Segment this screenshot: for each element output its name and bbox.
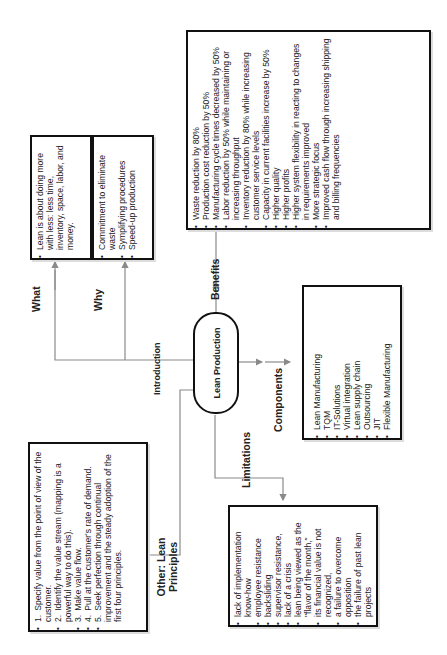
what-box: Lean is about doing more with less: less… — [30, 135, 92, 260]
label-what: What — [30, 286, 42, 312]
limitation-item: its financial value is not recognized, — [313, 511, 333, 625]
benefit-item: Improved cash flow through increasing sh… — [321, 36, 341, 228]
why-item: Symplifying procedures — [117, 141, 127, 258]
component-item: Virtual integration — [342, 291, 352, 438]
label-benefits: Benefits — [209, 259, 221, 300]
limitation-item: the failure of past lean projects — [353, 511, 373, 625]
component-item: Outsourcing — [362, 291, 372, 438]
why-item: Commitment to eliminate waste — [97, 141, 117, 258]
component-item: Lean supply chain — [352, 291, 362, 438]
principles-list: 1.Specify value from the point of view o… — [30, 444, 126, 634]
benefit-item: More strategic focus — [311, 36, 321, 228]
component-item: TQM — [322, 291, 332, 438]
benefit-item: Capacity in current facilities increase … — [261, 36, 271, 228]
label-lean-principles: Other: Lean Principles — [155, 534, 179, 600]
limitation-item: employee resistance — [253, 511, 263, 625]
principle-item: 1.Specify value from the point of view o… — [33, 448, 53, 630]
limitation-item: supervisor resistance, — [273, 511, 283, 625]
principle-item: 4.Pull at the customer's rate of demand. — [83, 448, 93, 630]
label-introduction: Introduction — [152, 343, 162, 396]
principle-item: 5.Seek perfection through continual impr… — [93, 448, 123, 630]
benefits-list: Waste reduction by 80% Production cost r… — [188, 32, 344, 232]
why-list: Commitment to eliminate waste Symplifyin… — [94, 137, 140, 262]
components-list: Lean Manufacturing TQM IT-Solutions Virt… — [304, 287, 395, 442]
label-why: Why — [92, 289, 104, 311]
center-node-lean-production: Lean Production — [193, 312, 239, 414]
benefit-item: Manufacturing cycle times decreased by 5… — [211, 36, 221, 228]
why-box: Commitment to eliminate waste Symplifyin… — [92, 135, 154, 260]
benefit-item: Production cost reduction by 50% — [201, 36, 211, 228]
benefit-item: Higher system flexibility in reacting to… — [291, 36, 311, 228]
lean-principles-box: 1.Specify value from the point of view o… — [28, 442, 148, 632]
what-list: Lean is about doing more with less: less… — [32, 137, 78, 262]
component-item: IT-Solutions — [332, 291, 342, 438]
component-item: JIT — [372, 291, 382, 438]
why-item: Speed-up production — [127, 141, 137, 258]
benefit-item: Waste reduction by 80% — [191, 36, 201, 228]
component-item: Lean Manufacturing — [312, 291, 322, 438]
limitation-item: backsliding — [263, 511, 273, 625]
benefit-item: Labor reduction by 50% while maintaining… — [221, 36, 241, 228]
principle-item: 2.Identify the value stream (mapping is … — [53, 448, 73, 630]
benefit-item: Higher quality — [271, 36, 281, 228]
what-item: Lean is about doing more with less: less… — [35, 141, 75, 258]
limitation-item: lean being viewed as the "flavor of the … — [293, 511, 313, 625]
center-node-label: Lean Production — [211, 327, 221, 398]
benefits-box: Waste reduction by 80% Production cost r… — [186, 30, 431, 230]
benefit-item: Higher profits — [281, 36, 291, 228]
limitations-box: lack of implementation know-how employee… — [228, 505, 378, 627]
principle-item: 3.Make value flow. — [73, 448, 83, 630]
limitation-item: lack of implementation know-how — [233, 511, 253, 625]
label-limitations: Limitations — [240, 432, 252, 488]
limitations-list: lack of implementation know-how employee… — [230, 507, 376, 629]
label-lean-principles-text: Other: Lean Principles — [155, 538, 179, 597]
components-box: Lean Manufacturing TQM IT-Solutions Virt… — [302, 285, 402, 440]
benefit-item: Inventory reduction by 80% while increas… — [241, 36, 261, 228]
label-components: Components — [272, 368, 284, 432]
component-item: Flexible Manufacturing — [382, 291, 392, 438]
limitation-item: a failure to overcome opposition — [333, 511, 353, 625]
limitation-item: lack of a crisis — [283, 511, 293, 625]
